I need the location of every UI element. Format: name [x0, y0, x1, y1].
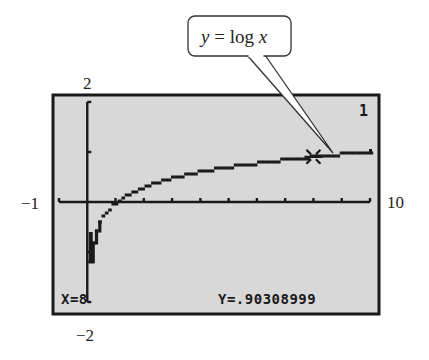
y-readout: Y=.90308999 [218, 292, 316, 306]
equation-number: 1 [359, 104, 369, 119]
callout-x-var: x [259, 26, 267, 47]
screen-frame [53, 95, 379, 314]
x-readout: X=8 [61, 292, 88, 306]
ymin-label: −2 [76, 327, 94, 344]
xmin-label: −1 [21, 195, 39, 212]
callout-label: y = log x [201, 27, 267, 46]
ymax-label: 2 [83, 75, 92, 92]
callout-equals: = log [209, 26, 258, 47]
xmax-label: 10 [387, 194, 404, 211]
graph-figure: y = log x 2 −1 10 −2 1 X=8 Y=.90308999 [0, 0, 429, 360]
